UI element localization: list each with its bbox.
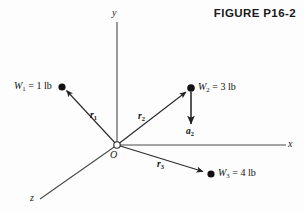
vector-label-r1-subscript: 1 bbox=[94, 114, 97, 121]
origin-label: O bbox=[110, 150, 117, 160]
z-axis bbox=[40, 145, 117, 199]
mass-marker-w3 bbox=[207, 170, 214, 177]
mass-label-w3-value: = 4 lb bbox=[230, 167, 256, 178]
vector-label-r2: r2 bbox=[138, 112, 145, 122]
axis-label-x: x bbox=[288, 139, 292, 149]
vector-label-r1: r1 bbox=[90, 111, 97, 121]
figure-drawing bbox=[0, 0, 304, 212]
vector-r2-line bbox=[117, 92, 186, 145]
vector-label-r3: r3 bbox=[157, 160, 164, 170]
vector-label-a2: a2 bbox=[186, 127, 194, 137]
vector-label-r2-subscript: 2 bbox=[142, 115, 145, 122]
figure-container: FIGURE P16-2 y x z O W1 = 1 lb W2 = 3 lb… bbox=[0, 0, 304, 212]
mass-label-w3: W3 = 4 lb bbox=[218, 168, 256, 178]
axis-label-y: y bbox=[112, 8, 116, 18]
figure-title: FIGURE P16-2 bbox=[214, 7, 296, 19]
mass-label-w1: W1 = 1 lb bbox=[14, 81, 52, 91]
vector-label-r3-subscript: 3 bbox=[161, 163, 164, 170]
mass-label-w2-value: = 3 lb bbox=[210, 81, 236, 92]
axis-label-z: z bbox=[30, 193, 34, 203]
mass-marker-w2 bbox=[187, 84, 195, 92]
mass-label-w1-value: = 1 lb bbox=[26, 80, 52, 91]
origin-marker bbox=[114, 142, 120, 148]
vector-label-a2-subscript: 2 bbox=[191, 130, 194, 137]
mass-label-w2: W2 = 3 lb bbox=[198, 82, 236, 92]
mass-marker-w1 bbox=[58, 83, 65, 90]
